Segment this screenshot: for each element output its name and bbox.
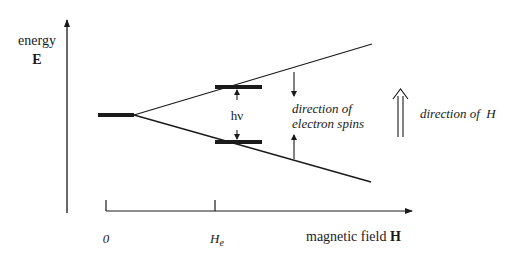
spin-label-line2: electron spins (292, 116, 364, 131)
field-direction-label: direction of H (420, 106, 496, 121)
spin-label-line1: direction of (292, 101, 354, 116)
tick-label-zero: 0 (103, 231, 110, 246)
field-axis-label: magnetic field H (306, 229, 401, 244)
field-direction-double-arrow (393, 89, 408, 137)
tick-label-He: He (209, 231, 224, 248)
energy-axis-label: energy (18, 33, 56, 48)
hv-label: hν (231, 108, 244, 123)
energy-axis-symbol: E (32, 52, 41, 67)
energy-level-diagram: energy E 0 He magnetic field H hν direct… (0, 0, 512, 253)
